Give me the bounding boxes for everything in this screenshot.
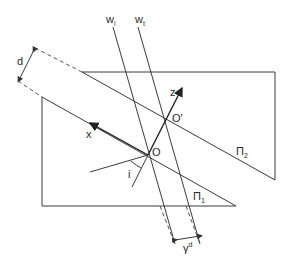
label-z: z xyxy=(170,86,176,98)
x-axis-arrow xyxy=(90,123,148,155)
label-w-t: wt xyxy=(134,13,145,27)
plane-pi2 xyxy=(82,72,275,180)
label-d: d xyxy=(17,55,23,67)
label-w-i: wi xyxy=(105,13,116,27)
label-pi-2: Π2 xyxy=(236,145,248,159)
label-pi-1: Π1 xyxy=(193,190,205,204)
plane-pi1 xyxy=(42,97,236,206)
wave-lines xyxy=(113,27,200,244)
incident-ray xyxy=(90,155,148,187)
slab-extensions xyxy=(18,48,82,97)
label-x: x xyxy=(86,128,92,140)
label-gamma-d: γd xyxy=(183,241,193,254)
label-O-prime: O' xyxy=(172,112,183,124)
label-O: O xyxy=(152,146,161,158)
optics-geometry-diagram: d wi wt z x O O' i Π1 Π2 γd xyxy=(0,0,287,262)
gamma-d-arrow xyxy=(175,236,200,240)
label-i: i xyxy=(128,168,130,180)
